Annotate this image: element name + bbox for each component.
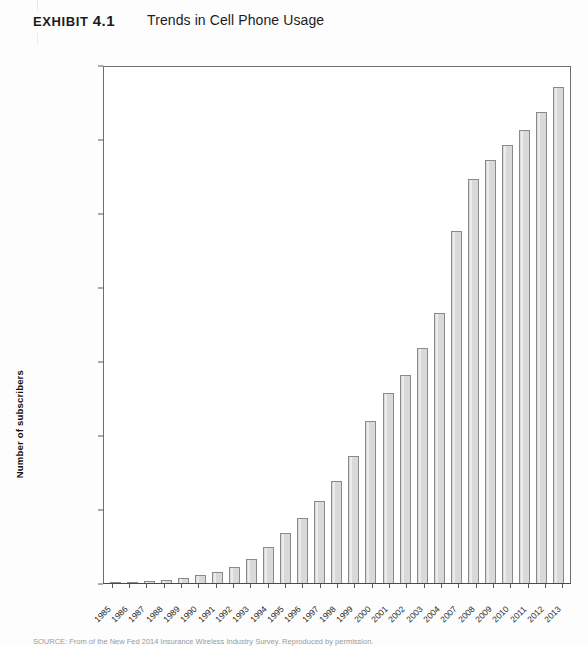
- bar: [451, 231, 462, 583]
- bar: [383, 393, 394, 583]
- x-axis-tick-mark: [216, 584, 217, 588]
- x-axis-tick-label: 2009: [473, 604, 493, 624]
- bar: [348, 456, 359, 583]
- x-axis-tick-mark: [406, 584, 407, 588]
- bar: [178, 578, 189, 583]
- x-axis-tick-label: 1996: [283, 604, 303, 624]
- x-axis-tick-mark: [528, 584, 529, 588]
- x-axis-tick-label: 1994: [248, 604, 268, 624]
- bar: [536, 112, 547, 583]
- x-axis-tick-mark: [476, 584, 477, 588]
- bar: [127, 582, 138, 583]
- x-axis-tick-label: 2007: [439, 604, 459, 624]
- x-axis-tick-label: 2001: [369, 604, 389, 624]
- x-axis-tick-label: 2010: [491, 604, 511, 624]
- x-axis-tick-label: 2004: [421, 604, 441, 624]
- exhibit-label: Exhibit 4.1: [33, 12, 115, 29]
- bar: [263, 547, 274, 583]
- x-axis-tick-mark: [493, 584, 494, 588]
- exhibit-header: Exhibit 4.1 Trends in Cell Phone Usage: [0, 0, 588, 46]
- bar: [246, 559, 257, 583]
- bar: [229, 567, 240, 583]
- exhibit-page: Exhibit 4.1 Trends in Cell Phone Usage N…: [0, 0, 588, 646]
- y-axis-title: Number of subscribers: [14, 370, 28, 478]
- x-axis-tick-mark: [146, 584, 147, 588]
- x-axis-tick-mark: [510, 584, 511, 588]
- x-axis-tick-mark: [562, 584, 563, 588]
- x-axis-tick-mark: [250, 584, 251, 588]
- bar: [417, 348, 428, 583]
- x-axis-tick-label: 1995: [265, 604, 285, 624]
- x-axis-tick-label: 1998: [317, 604, 337, 624]
- bar: [297, 518, 308, 583]
- x-axis-tick-label: 1991: [196, 604, 216, 624]
- exhibit-label-word: Exhibit: [33, 14, 88, 29]
- x-axis-tick-label: 1993: [231, 604, 251, 624]
- x-axis-tick-label: 1989: [161, 604, 181, 624]
- plot-area: [103, 66, 571, 584]
- bar: [468, 179, 479, 583]
- x-axis-tick-mark: [285, 584, 286, 588]
- x-axis-tick-mark: [198, 584, 199, 588]
- bar: [280, 533, 291, 583]
- x-axis-tick-mark: [320, 584, 321, 588]
- x-axis-tick-label: 2012: [525, 604, 545, 624]
- bar: [331, 481, 342, 583]
- bar: [485, 160, 496, 583]
- bar: [553, 87, 564, 583]
- x-axis-tick-mark: [337, 584, 338, 588]
- chart-container: Number of subscribers 050,000,000100,000…: [0, 46, 588, 626]
- x-axis-tick-mark: [302, 584, 303, 588]
- x-axis-tick-mark: [354, 584, 355, 588]
- x-axis-tick-label: 2002: [387, 604, 407, 624]
- bar: [434, 313, 445, 583]
- x-axis-tick-label: 2008: [456, 604, 476, 624]
- header-rule-top: [37, 0, 38, 10]
- x-axis-tick-label: 1990: [179, 604, 199, 624]
- x-axis-tick-mark: [268, 584, 269, 588]
- x-axis-tick-label: 1988: [144, 604, 164, 624]
- x-axis-tick-label: 1985: [92, 604, 112, 624]
- x-axis-tick-mark: [129, 584, 130, 588]
- source-note: SOURCE: From of the New Fed 2014 Insuran…: [33, 637, 573, 646]
- bar: [502, 145, 513, 583]
- x-axis-tick-label: 2000: [352, 604, 372, 624]
- x-axis-tick-label: 1999: [335, 604, 355, 624]
- x-axis-labels: 1985198619871988198919901991199219931994…: [103, 589, 571, 637]
- x-axis-tick-mark: [164, 584, 165, 588]
- x-axis-tick-mark: [112, 584, 113, 588]
- x-axis-tick-mark: [545, 584, 546, 588]
- x-axis-tick-label: 1986: [109, 604, 129, 624]
- x-axis-tick-mark: [372, 584, 373, 588]
- x-axis-tick-label: 2003: [404, 604, 424, 624]
- header-rule-bottom: [37, 33, 38, 45]
- x-axis-tick-label: 1987: [127, 604, 147, 624]
- bar: [314, 501, 325, 583]
- exhibit-title: Trends in Cell Phone Usage: [147, 12, 324, 28]
- bar: [519, 130, 530, 583]
- x-axis-tick-label: 2011: [508, 604, 528, 624]
- bar: [400, 375, 411, 583]
- x-axis-tick-label: 2013: [543, 604, 563, 624]
- bar: [212, 572, 223, 583]
- x-axis-tick-mark: [458, 584, 459, 588]
- bar: [195, 575, 206, 583]
- x-axis-tick-mark: [233, 584, 234, 588]
- bar: [144, 581, 155, 583]
- x-axis-tick-label: 1997: [300, 604, 320, 624]
- x-axis-tick-mark: [424, 584, 425, 588]
- exhibit-number: 4.1: [93, 12, 115, 29]
- bar: [365, 421, 376, 583]
- x-axis-tick-mark: [181, 584, 182, 588]
- bar: [161, 580, 172, 583]
- x-axis-tick-label: 1992: [213, 604, 233, 624]
- bar-series: [104, 67, 570, 583]
- x-axis-tick-mark: [441, 584, 442, 588]
- x-axis-tick-mark: [389, 584, 390, 588]
- bar: [110, 582, 121, 583]
